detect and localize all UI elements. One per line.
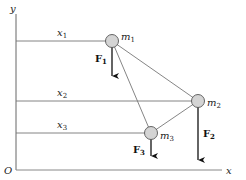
force-system-diagram: y x O x1 x2 x3 m1 m2 m3 F1 F2 F3 [0, 0, 246, 180]
x-axis-label: x [226, 165, 232, 176]
mass-m2 [192, 95, 205, 108]
m2-label: m2 [207, 97, 221, 110]
m3-label: m3 [160, 130, 174, 143]
mass-m3 [145, 127, 158, 140]
f2-label: F2 [203, 128, 215, 141]
x3-label: x3 [57, 119, 67, 132]
mass-m1 [106, 35, 119, 48]
x2-label: x2 [57, 87, 67, 100]
origin-label: O [4, 165, 12, 176]
rod-m2-m3 [151, 101, 198, 133]
x1-label: x1 [57, 27, 67, 40]
m1-label: m1 [121, 31, 135, 44]
y-axis-label: y [9, 3, 16, 14]
f3-label: F3 [133, 144, 145, 157]
f1-label: F1 [95, 53, 107, 66]
